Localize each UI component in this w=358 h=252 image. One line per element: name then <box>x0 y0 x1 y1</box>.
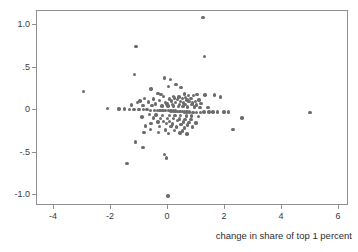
x-tick-mark <box>167 205 168 209</box>
scatter-point <box>165 156 168 159</box>
scatter-point <box>178 131 181 134</box>
scatter-point <box>207 110 210 113</box>
x-axis-title: change in share of top 1 percent <box>216 231 352 241</box>
scatter-point <box>231 128 234 131</box>
y-tick-mark <box>32 67 36 68</box>
scatter-point <box>128 108 131 111</box>
scatter-point <box>206 106 209 109</box>
y-tick-mark <box>32 152 36 153</box>
scatter-point <box>134 45 137 48</box>
scatter-point <box>156 120 159 123</box>
scatter-point <box>152 97 155 100</box>
scatter-point <box>169 125 172 128</box>
scatter-point <box>219 95 222 98</box>
scatter-point <box>213 93 216 96</box>
scatter-point <box>137 108 140 111</box>
x-axis: -4-20246 <box>0 205 358 252</box>
scatter-point <box>163 76 166 79</box>
scatter-point <box>123 107 126 110</box>
scatter-point <box>211 110 214 113</box>
scatter-point <box>148 113 151 116</box>
scatter-point <box>197 115 200 118</box>
scatter-point <box>179 86 182 89</box>
scatter-point <box>158 99 161 102</box>
scatter-point <box>134 140 137 143</box>
y-tick-label: 0 <box>25 105 30 114</box>
scatter-point <box>165 122 168 125</box>
scatter-point <box>172 104 175 107</box>
scatter-point <box>117 107 120 110</box>
scatter-point <box>106 107 109 110</box>
scatter-point <box>216 110 219 113</box>
scatter-point <box>195 93 198 96</box>
scatter-point <box>308 111 311 114</box>
x-tick-label: -2 <box>106 212 114 221</box>
scatter-point <box>169 78 172 81</box>
scatter-point <box>150 104 153 107</box>
x-tick-mark <box>338 205 339 209</box>
scatter-point <box>141 146 144 149</box>
scatter-point <box>149 109 152 112</box>
plot-area-frame <box>36 10 348 205</box>
y-tick-mark <box>32 109 36 110</box>
scatter-point <box>174 83 177 86</box>
scatter-point <box>157 131 160 134</box>
x-tick-label: -4 <box>49 212 57 221</box>
scatter-point <box>152 116 155 119</box>
y-tick-label: -1.0 <box>14 189 30 198</box>
scatter-point <box>167 132 170 135</box>
scatter-point <box>149 122 152 125</box>
scatter-point <box>130 103 133 106</box>
scatter-point <box>222 110 225 113</box>
scatter-point <box>82 90 85 93</box>
y-tick-label: .5 <box>22 62 30 71</box>
y-tick-label: -.5 <box>19 147 30 156</box>
scatter-point <box>125 162 128 165</box>
x-tick-mark <box>110 205 111 209</box>
x-tick-label: 6 <box>336 212 341 221</box>
x-tick-label: 4 <box>279 212 284 221</box>
scatter-point <box>132 108 135 111</box>
scatter-point <box>166 104 169 107</box>
scatter-point <box>186 105 189 108</box>
y-tick-mark <box>32 24 36 25</box>
scatter-point <box>185 132 188 135</box>
scatter-point <box>136 101 139 104</box>
scatter-point <box>166 194 169 197</box>
scatter-point <box>177 105 180 108</box>
scatter-point <box>142 131 145 134</box>
scatter-point <box>133 73 136 76</box>
scatter-point <box>144 124 147 127</box>
scatter-point <box>194 121 197 124</box>
scatter-point <box>164 128 167 131</box>
scatter-points-layer <box>37 11 347 204</box>
scatter-point <box>186 123 189 126</box>
scatter-plot-figure: 1.0.50-.5-1.0 -4-20246 change in share o… <box>0 0 358 252</box>
scatter-point <box>201 16 204 19</box>
scatter-point <box>199 102 202 105</box>
scatter-point <box>173 129 176 132</box>
scatter-point <box>149 87 152 90</box>
scatter-point <box>191 125 194 128</box>
y-tick-mark <box>32 194 36 195</box>
scatter-point <box>176 119 179 122</box>
x-tick-label: 0 <box>165 212 170 221</box>
scatter-point <box>203 93 206 96</box>
scatter-point <box>172 117 175 120</box>
scatter-point <box>198 106 201 109</box>
scatter-point <box>181 105 184 108</box>
scatter-point <box>240 116 243 119</box>
y-tick-label: 1.0 <box>17 20 30 29</box>
x-tick-label: 2 <box>222 212 227 221</box>
scatter-point <box>203 55 206 58</box>
x-tick-mark <box>281 205 282 209</box>
scatter-point <box>141 104 144 107</box>
scatter-point <box>227 110 230 113</box>
x-tick-mark <box>53 205 54 209</box>
scatter-point <box>193 105 196 108</box>
x-tick-mark <box>224 205 225 209</box>
scatter-point <box>154 102 157 105</box>
scatter-point <box>167 85 170 88</box>
scatter-point <box>140 115 143 118</box>
scatter-point <box>202 110 205 113</box>
